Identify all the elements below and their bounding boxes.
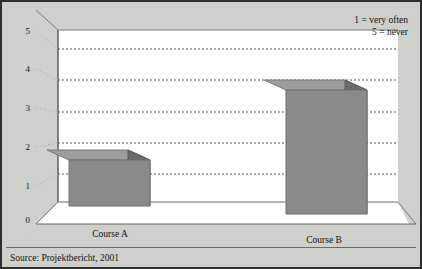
source-note: Source: Projektbericht, 2001: [10, 253, 119, 263]
x-axis-label-course-a: Course A: [50, 229, 170, 239]
y-axis-tick-5: 5: [16, 27, 30, 36]
y-axis-tick-0: 0: [16, 216, 30, 225]
bar-course-b-front: [286, 90, 367, 214]
y-axis-tick-3: 3: [16, 104, 30, 113]
legend-entry-very-often: 1 = very often: [354, 14, 408, 26]
legend-entry-never: 5 = never: [354, 26, 408, 38]
y-axis-tick-2: 2: [16, 143, 30, 152]
x-axis-label-course-b: Course B: [264, 235, 384, 245]
chart-legend: 1 = very often 5 = never: [354, 14, 408, 38]
chart-figure: 5 4 3 2 1 0 Course A Course B 1 = very o…: [0, 0, 422, 269]
y-axis-tick-4: 4: [16, 65, 30, 74]
chart-3d-scene: [2, 2, 420, 267]
bar-course-a-front: [69, 160, 150, 206]
source-divider: [6, 247, 416, 248]
plot-left-wall: [36, 10, 58, 224]
y-axis-tick-1: 1: [16, 182, 30, 191]
